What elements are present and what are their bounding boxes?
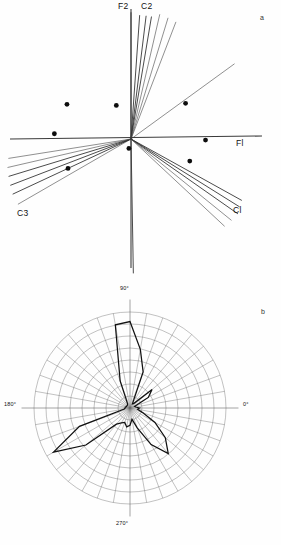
panel-a-plot	[0, 0, 281, 272]
vector-line	[131, 139, 240, 207]
vector-line	[10, 139, 131, 185]
vector-line	[13, 139, 131, 194]
panel-b-plot	[0, 272, 281, 545]
vector-line	[131, 139, 242, 200]
axis-label-f1: Fl	[236, 138, 244, 148]
vector-line	[131, 18, 168, 139]
scatter-point	[126, 146, 131, 151]
rose-data-polygon	[54, 322, 169, 454]
axis-label-f2: F2	[118, 1, 129, 11]
vector-line	[131, 139, 238, 214]
vector-line	[8, 139, 131, 168]
panel-label-a: a	[260, 14, 264, 21]
figure-container: F2 C2 Fl C3 Cl a 90° 0° 180° 270° b	[0, 0, 281, 545]
panel-b-rose-diagram: 90° 0° 180° 270° b	[0, 272, 281, 545]
scatter-point	[187, 159, 192, 164]
scatter-point	[114, 103, 119, 108]
panel-label-b: b	[261, 308, 265, 315]
vector-line	[9, 139, 131, 176]
vector-line	[18, 139, 131, 204]
axis-label-c3: C3	[17, 208, 29, 218]
scatter-point	[52, 131, 57, 136]
scatter-point	[203, 138, 208, 143]
polar-tick-0: 0°	[243, 401, 249, 407]
vector-bundle	[8, 12, 242, 273]
polar-tick-270: 270°	[116, 520, 128, 526]
vector-line	[131, 139, 231, 220]
scatter-point	[65, 102, 70, 107]
vector-line	[131, 17, 151, 139]
scatter-point	[66, 166, 71, 171]
panel-a-vector-biplot: F2 C2 Fl C3 Cl a	[0, 0, 281, 272]
vector-line	[131, 64, 235, 139]
scatter-point	[183, 101, 188, 106]
polar-tick-90: 90°	[120, 285, 129, 291]
axis-label-c1: Cl	[233, 205, 242, 215]
polar-tick-180: 180°	[4, 401, 16, 407]
polar-grid-spokes	[22, 300, 239, 517]
x-axis-line	[10, 136, 262, 139]
axis-label-c2: C2	[141, 1, 153, 11]
vector-line	[8, 139, 131, 158]
